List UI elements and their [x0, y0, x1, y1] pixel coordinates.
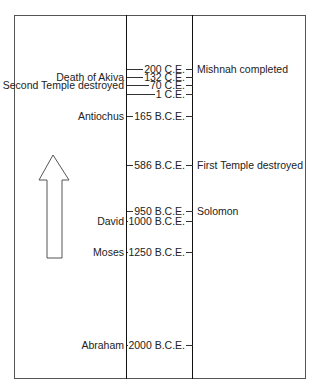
event-right-label: First Temple destroyed — [197, 159, 303, 171]
event-date: 1000 B.C.E. — [128, 215, 185, 227]
event-tick — [127, 69, 143, 70]
event-left-label: Second Temple destroyed — [3, 79, 124, 91]
event-left-label: Antiochus — [78, 110, 124, 122]
event-right-label: Mishnah completed — [197, 63, 288, 75]
event-tick — [186, 221, 193, 222]
event-tick — [127, 116, 133, 117]
up-arrow-icon — [0, 0, 314, 386]
event-tick — [186, 69, 193, 70]
event-tick — [186, 165, 193, 166]
event-tick — [186, 85, 193, 86]
event-tick — [127, 77, 143, 78]
event-tick — [186, 252, 193, 253]
event-tick — [127, 165, 133, 166]
event-left-label: Moses — [93, 246, 124, 258]
event-tick — [127, 94, 155, 95]
event-tick — [127, 85, 149, 86]
event-date: 586 B.C.E. — [134, 159, 185, 171]
event-right-label: Solomon — [197, 205, 238, 217]
event-tick — [186, 211, 193, 212]
event-date: 165 B.C.E. — [134, 110, 185, 122]
event-date: 1 C.E. — [156, 88, 185, 100]
event-tick — [186, 345, 193, 346]
event-tick — [186, 94, 193, 95]
event-date: 2000 B.C.E. — [128, 339, 185, 351]
event-tick — [186, 77, 193, 78]
event-date: 1250 B.C.E. — [128, 246, 185, 258]
event-tick — [186, 116, 193, 117]
event-tick — [127, 211, 133, 212]
event-left-label: David — [97, 215, 124, 227]
event-left-label: Abraham — [81, 339, 124, 351]
